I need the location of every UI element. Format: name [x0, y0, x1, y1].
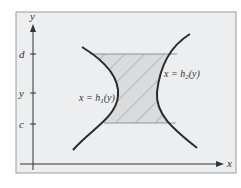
tick-label-d: d	[19, 48, 25, 60]
tick-label-y: y	[18, 87, 24, 99]
tick-label-c: c	[19, 118, 24, 130]
region-between-curves-diagram: y x d y c x = h1(y) x = h2(y)	[0, 0, 241, 188]
y-axis-label: y	[29, 10, 35, 22]
x-axis-label: x	[226, 157, 232, 169]
